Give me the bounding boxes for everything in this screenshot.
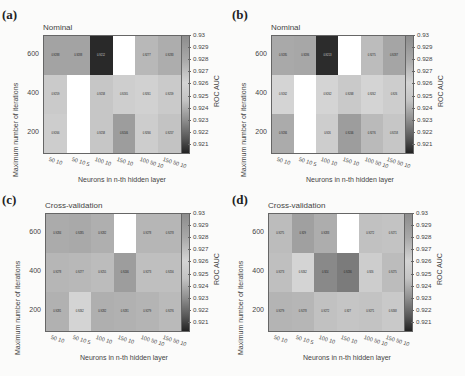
heatmap-cell: 0.9279 (269, 292, 292, 331)
colorbar-tick-label: 0.921 (193, 140, 208, 147)
heatmap-cell: 0.926 (383, 75, 405, 114)
y-tick-label: 600 (21, 228, 41, 235)
y-tick-label: 200 (247, 128, 267, 135)
heatmap-cell: 0.9266 (44, 114, 67, 153)
colorbar-tick-label: 0.93 (417, 31, 429, 38)
x-tick-label: 150 50 10 (385, 334, 410, 347)
heatmap-cell: 0.9283 (158, 36, 181, 75)
x-tick-label: 150 50 10 (162, 156, 187, 169)
heatmap-cell (113, 36, 136, 75)
heatmap-grid: 0.92840.92850.92820.92780.92780.92780.92… (45, 213, 182, 332)
x-axis-label: Neurons in n-th hidden layer (306, 176, 394, 183)
heatmap-cell: 0.9265 (113, 75, 136, 114)
colorbar-tick-label: 0.929 (416, 221, 431, 228)
colorbar-tick-label: 0.929 (193, 43, 208, 50)
colorbar-tick-label: 0.922 (417, 128, 432, 135)
heatmap-cell: 0.9246 (338, 114, 360, 153)
heatmap-cell: 0.9278 (159, 214, 182, 253)
heatmap-cell (337, 214, 360, 253)
colorbar-tick-label: 0.927 (193, 67, 208, 74)
colorbar-tick-label: 0.923 (193, 294, 208, 301)
y-tick-label: 600 (19, 50, 39, 57)
panel-letter: (d) (232, 192, 248, 208)
colorbar-tick-label: 0.928 (416, 233, 431, 240)
heatmap-cell: 0.9246 (113, 114, 136, 153)
x-tick-label: 50 10 5 (298, 156, 317, 167)
heatmap-cell: 0.9258 (90, 114, 113, 153)
heatmap-cell: 0.9275 (382, 253, 405, 292)
colorbar-tick-label: 0.928 (193, 55, 208, 62)
heatmap-cell: 0.9281 (114, 292, 137, 331)
heatmap-cell: 0.926 (316, 114, 338, 153)
heatmap-panel-b: (b)Nominal0.92850.92860.92130.92750.9287… (230, 0, 462, 188)
heatmap-panel-a: (a)Nominal0.92880.92880.92120.92770.9283… (0, 0, 232, 188)
heatmap-cell: 0.926 (359, 253, 382, 292)
colorbar-tick-label: 0.924 (193, 104, 208, 111)
heatmap-cell: 0.9261 (135, 75, 158, 114)
x-tick-label: 100 50 10 (140, 334, 165, 347)
y-tick-label: 400 (244, 267, 264, 274)
colorbar-tick-label: 0.929 (193, 221, 208, 228)
x-tick-label: 50 10 (273, 334, 288, 344)
colorbar-tick-label: 0.922 (416, 306, 431, 313)
colorbar (181, 35, 190, 154)
y-axis-label: Maximum number of iterations (12, 83, 19, 177)
colorbar-tick-label: 0.921 (416, 318, 431, 325)
heatmap-cell (294, 75, 316, 114)
x-tick-label: 50 10 5 (295, 334, 314, 345)
x-tick-label: 50 10 (276, 156, 291, 166)
y-tick-label: 400 (19, 89, 39, 96)
y-tick-label: 200 (19, 128, 39, 135)
x-tick-label: 150 10 (342, 156, 360, 167)
heatmap-cell: 0.927 (337, 292, 360, 331)
heatmap-cell: 0.9271 (382, 214, 405, 253)
heatmap-cell: 0.9287 (383, 36, 405, 75)
colorbar-tick-label: 0.923 (417, 116, 432, 123)
panel-subtitle: Nominal (271, 23, 300, 32)
panel-letter: (c) (2, 192, 16, 208)
y-tick-label: 600 (247, 50, 267, 57)
heatmap-cell: 0.9284 (46, 214, 69, 253)
heatmap-cell: 0.9246 (114, 253, 137, 292)
heatmap-cell (338, 36, 360, 75)
heatmap-cell: 0.9268 (382, 292, 405, 331)
heatmap-panel-d: (d)Cross-validation0.92750.9290.92830.92… (230, 185, 462, 373)
panel-subtitle: Cross-validation (268, 201, 325, 210)
x-tick-label: 150 10 (340, 334, 358, 345)
heatmap-cell: 0.9258 (90, 75, 113, 114)
colorbar-tick-label: 0.928 (193, 233, 208, 240)
colorbar-tick-label: 0.927 (417, 67, 432, 74)
x-tick-label: 100 10 (95, 334, 113, 345)
heatmap-grid: 0.92750.9290.92830.92720.92710.92730.926… (268, 213, 405, 332)
heatmap-cell: 0.9277 (135, 36, 158, 75)
x-tick-label: 50 10 5 (72, 334, 91, 345)
colorbar-tick-label: 0.924 (417, 104, 432, 111)
heatmap-cell: 0.929 (292, 214, 315, 253)
colorbar-tick-label: 0.922 (193, 306, 208, 313)
heatmap-cell: 0.9213 (316, 36, 338, 75)
heatmap-cell: 0.9275 (361, 36, 383, 75)
heatmap-cell (114, 214, 137, 253)
y-axis-label: Maximum number of iterations (237, 261, 244, 355)
heatmap-cell: 0.9262 (292, 253, 315, 292)
x-tick-label: 100 10 (320, 156, 338, 167)
heatmap-cell: 0.9262 (69, 292, 92, 331)
x-tick-label: 150 10 (117, 334, 135, 345)
heatmap-cell: 0.9256 (159, 253, 182, 292)
colorbar-tick-label: 0.924 (193, 282, 208, 289)
heatmap-cell: 0.9278 (46, 253, 69, 292)
x-axis-label: Neurons in n-th hidden layer (303, 354, 391, 361)
panel-subtitle: Cross-validation (45, 201, 102, 210)
heatmap-cell: 0.9277 (69, 253, 92, 292)
heatmap-cell: 0.9266 (135, 114, 158, 153)
heatmap-cell: 0.9257 (158, 114, 181, 153)
x-tick-label: 50 10 5 (71, 156, 90, 167)
y-tick-label: 400 (21, 267, 41, 274)
heatmap-cell: 0.9259 (44, 75, 67, 114)
heatmap-cell: 0.9259 (158, 75, 181, 114)
colorbar (405, 35, 414, 154)
heatmap-grid: 0.92880.92880.92120.92770.92830.92590.92… (43, 35, 182, 154)
y-axis-label: Maximum number of iterations (14, 261, 21, 355)
colorbar-tick-label: 0.929 (417, 43, 432, 50)
heatmap-cell: 0.9262 (316, 75, 338, 114)
